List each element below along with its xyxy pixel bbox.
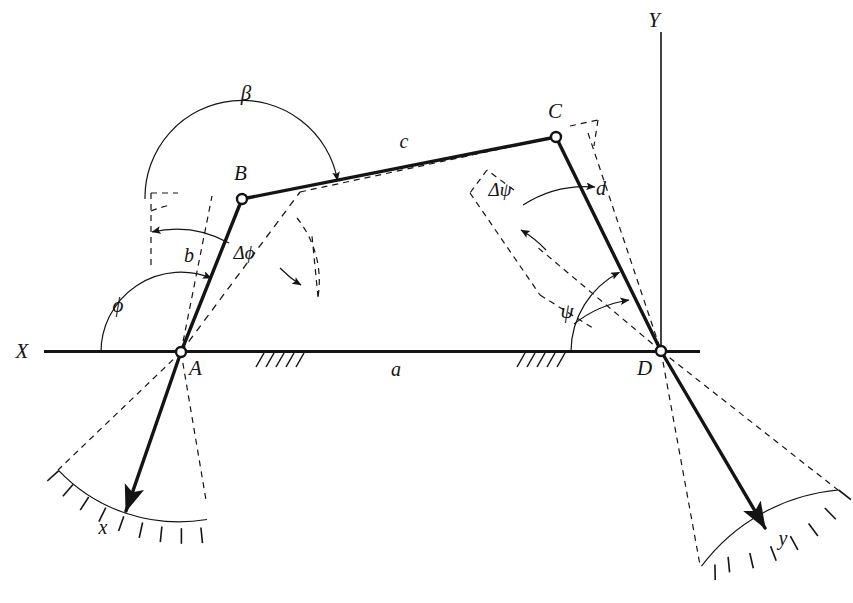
link-b-crank bbox=[181, 199, 242, 352]
reference-ray-A-lower-left bbox=[58, 352, 181, 470]
pivot-A bbox=[176, 347, 186, 357]
ground-hatch-right bbox=[517, 353, 565, 367]
output-angle-scale-y: y bbox=[702, 490, 851, 580]
delta-psi-arc-lower bbox=[521, 230, 546, 250]
link-label-c: c bbox=[400, 130, 409, 152]
y-scale-arc bbox=[702, 490, 839, 566]
y-scale-label: y bbox=[777, 527, 788, 550]
delta-psi-sector-left-lower bbox=[470, 193, 540, 295]
displaced-position-group bbox=[58, 133, 838, 565]
delta-phi-sector-outer bbox=[151, 205, 170, 211]
x-axis-label: X bbox=[15, 339, 30, 363]
reference-ray-D-upper-left bbox=[536, 246, 661, 351]
angle-psi: ψ bbox=[560, 272, 619, 351]
x-scale-label: x bbox=[98, 516, 108, 538]
joint-label-B: B bbox=[234, 161, 247, 185]
kinematic-diagram: X Y bbox=[0, 0, 853, 603]
delta-phi-label: Δϕ bbox=[233, 242, 255, 263]
delta-psi-label: Δψ bbox=[488, 179, 513, 200]
angle-delta-psi: Δψ bbox=[470, 120, 629, 330]
pivot-C bbox=[551, 132, 561, 142]
x-scale-arc bbox=[59, 471, 207, 522]
displaced-output-d bbox=[588, 133, 661, 351]
pivot-D bbox=[656, 346, 666, 356]
delta-psi-sector-top-right bbox=[570, 120, 598, 126]
link-label-d: d bbox=[596, 177, 607, 199]
scale-pointer-group bbox=[126, 351, 765, 528]
pivot-B bbox=[237, 194, 247, 204]
y-axis-label: Y bbox=[648, 8, 662, 32]
pointer-arm-x bbox=[126, 352, 181, 511]
delta-psi-arc-bottom bbox=[574, 300, 629, 324]
ground-hatch-left bbox=[256, 353, 304, 367]
joint-label-D: D bbox=[636, 356, 652, 380]
delta-phi-sector-edge-right bbox=[312, 236, 318, 297]
delta-psi-sector-right-edge bbox=[594, 120, 598, 146]
beta-label: β bbox=[240, 81, 252, 105]
displaced-crank-b bbox=[181, 192, 300, 352]
psi-label: ψ bbox=[560, 299, 574, 323]
reference-ray-D-lower-right bbox=[661, 351, 838, 490]
phi-label: ϕ bbox=[113, 293, 124, 317]
delta-psi-sector-bracket bbox=[470, 170, 487, 193]
link-label-b: b bbox=[184, 244, 194, 266]
angle-delta-phi: Δϕ bbox=[151, 193, 319, 297]
delta-phi-arc-upper bbox=[152, 229, 229, 243]
delta-phi-arc-lower bbox=[280, 268, 301, 285]
link-label-a: a bbox=[391, 358, 401, 380]
joint-label-A: A bbox=[187, 356, 202, 380]
joint-label-group: A B C D bbox=[187, 99, 652, 380]
figure-canvas: X Y bbox=[0, 0, 853, 603]
psi-arc bbox=[571, 272, 620, 351]
joint-label-C: C bbox=[548, 99, 563, 123]
